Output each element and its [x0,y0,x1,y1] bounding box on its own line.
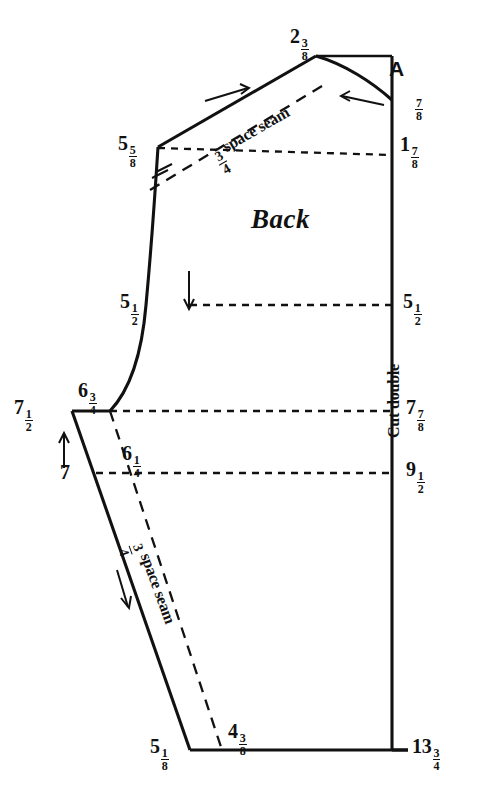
measurement-armhole-left: 512 [120,291,139,327]
piece-label-back: Back [251,206,310,233]
measurement-center-back-neck-drop: 78 [414,86,423,122]
shoulder-tick-mark [152,170,168,178]
pattern-diagram: 238 A 78 178 558 34space seam Back 512 5… [0,0,486,800]
grainline-note: Cut double [386,364,402,438]
fraction: 12 [417,470,425,495]
measurement-armhole-right: 512 [403,291,422,327]
measurement-center-back-upper: 178 [400,134,419,170]
back-neck-curve [316,56,392,100]
fraction: 12 [25,408,33,433]
fraction: 34 [89,391,97,416]
point-label-a: A [389,58,404,79]
measurement-underarm-inner: 634 [78,380,97,416]
fraction: 78 [415,97,423,122]
measurement-neck-apex: 238 [290,26,309,62]
armhole-tick-mark [156,164,172,172]
measurement-hem-inner: 438 [228,721,247,757]
measurement-waist-left: 7 [60,462,70,482]
measurement-waist-center-back: 912 [406,459,425,495]
fraction: 12 [414,302,422,327]
armhole-curve [110,147,158,411]
measurement-waist-inner: 614 [122,443,141,479]
fraction: 34 [433,747,441,772]
measurement-whole: 2 [290,26,300,46]
arrow-down-icon [184,271,194,309]
fraction: 18 [161,747,169,772]
measurement-underarm-center-back: 778 [406,397,425,433]
measurement-underarm-outer: 712 [14,397,33,433]
fraction: 58 [129,144,137,169]
fraction: 78 [411,145,419,170]
fraction: 14 [133,454,141,479]
fraction: 38 [239,732,247,757]
measurement-shoulder-point: 558 [118,133,137,169]
arrow-left-icon [341,91,384,105]
fraction: 12 [131,302,139,327]
measurement-hem-left: 518 [150,736,169,772]
fraction: 38 [301,37,309,62]
measurement-hem-center-back: 1334 [412,736,440,772]
fraction: 78 [417,408,425,433]
